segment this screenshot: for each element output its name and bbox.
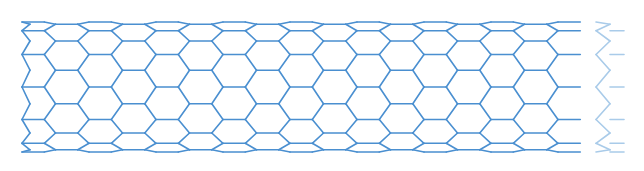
carbon-bond: [513, 133, 524, 143]
carbon-bond: [446, 31, 457, 41]
carbon-bond: [111, 120, 122, 134]
carbon-bond: [312, 70, 323, 87]
carbon-bond: [480, 24, 491, 31]
carbon-bond: [78, 133, 89, 143]
carbon-bond: [346, 24, 357, 31]
carbon-bond: [480, 143, 491, 150]
carbon-bond: [145, 55, 156, 71]
carbon-bond: [413, 143, 424, 150]
carbon-bond: [547, 41, 558, 55]
carbon-bond: [279, 104, 290, 120]
carbon-bond: [78, 120, 89, 134]
carbon-bond: [480, 22, 491, 24]
carbon-bond: [312, 31, 323, 41]
carbon-bond: [346, 31, 357, 41]
carbon-bond: [22, 120, 30, 134]
carbon-bond: [279, 41, 290, 55]
carbon-bond: [178, 120, 189, 134]
carbon-bond: [111, 22, 122, 24]
carbon-bond: [480, 70, 491, 87]
carbon-bond: [379, 55, 390, 71]
carbon-bond: [178, 70, 189, 87]
carbon-bond: [379, 104, 390, 120]
carbon-bond: [413, 41, 424, 55]
carbon-bond: [547, 70, 558, 87]
carbon-bond: [212, 104, 223, 120]
carbon-bond: [547, 24, 558, 31]
carbon-bond: [145, 133, 156, 143]
carbon-bond: [245, 133, 256, 143]
carbon-bond: [513, 55, 524, 71]
carbon-bond: [111, 70, 122, 87]
carbon-bond: [413, 70, 424, 87]
carbon-bond: [178, 133, 189, 143]
carbon-bond: [212, 31, 223, 41]
carbon-bond: [279, 31, 290, 41]
carbon-bond: [346, 133, 357, 143]
carbon-bond: [279, 24, 290, 31]
carbon-bond: [145, 150, 156, 152]
carbon-bond: [279, 22, 290, 24]
carbon-bond: [413, 87, 424, 104]
carbon-bond: [596, 150, 610, 152]
carbon-bond: [480, 150, 491, 152]
carbon-bond: [44, 24, 55, 31]
carbon-bond: [513, 70, 524, 87]
carbon-bond: [596, 24, 610, 31]
carbon-bond: [513, 120, 524, 134]
carbon-bond: [413, 104, 424, 120]
carbon-bond: [212, 24, 223, 31]
tube-open-end: [596, 22, 624, 152]
carbon-bond: [44, 120, 55, 134]
carbon-bond: [44, 31, 55, 41]
carbon-bond: [245, 41, 256, 55]
carbon-bond: [346, 120, 357, 134]
carbon-bond: [446, 70, 457, 87]
carbon-bond: [513, 22, 524, 24]
carbon-bond: [446, 143, 457, 150]
carbon-bond: [145, 143, 156, 150]
carbon-bond: [178, 143, 189, 150]
carbon-bond: [245, 143, 256, 150]
carbon-bond: [312, 120, 323, 134]
carbon-bond: [446, 22, 457, 24]
carbon-bond: [379, 22, 390, 24]
carbon-bond: [547, 87, 558, 104]
carbon-bond: [312, 55, 323, 71]
carbon-bond: [346, 70, 357, 87]
carbon-bond: [44, 143, 55, 150]
carbon-bond: [145, 87, 156, 104]
carbon-bond: [78, 143, 89, 150]
carbon-bond: [22, 24, 30, 31]
carbon-bond: [547, 120, 558, 134]
carbon-bond: [480, 87, 491, 104]
carbon-bond: [513, 41, 524, 55]
carbon-bond: [513, 150, 524, 152]
carbon-bond: [312, 22, 323, 24]
carbon-bond: [413, 150, 424, 152]
carbon-bond: [145, 41, 156, 55]
carbon-bond: [178, 41, 189, 55]
carbon-bond: [446, 133, 457, 143]
carbon-bond: [312, 41, 323, 55]
carbon-bond: [245, 87, 256, 104]
carbon-bond: [596, 22, 610, 24]
carbon-bond: [22, 133, 30, 143]
carbon-bond: [212, 55, 223, 71]
carbon-bond: [78, 55, 89, 71]
carbon-bond: [212, 22, 223, 24]
carbon-bond: [413, 55, 424, 71]
carbon-bond: [547, 22, 558, 24]
carbon-bond: [111, 87, 122, 104]
carbon-bond: [279, 70, 290, 87]
carbon-bond: [346, 143, 357, 150]
carbon-bond: [379, 150, 390, 152]
carbon-bond: [446, 55, 457, 71]
carbon-bond: [178, 31, 189, 41]
carbon-bond: [446, 104, 457, 120]
carbon-bond: [22, 70, 30, 87]
carbon-bond: [446, 24, 457, 31]
carbon-bond: [480, 55, 491, 71]
carbon-bond: [78, 87, 89, 104]
carbon-bond: [44, 104, 55, 120]
